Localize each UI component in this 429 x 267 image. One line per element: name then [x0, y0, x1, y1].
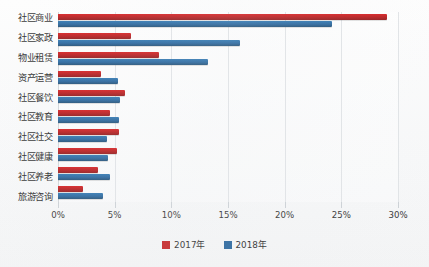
x-tick-label: 20%: [275, 210, 294, 220]
category-axis-labels: 社区商业 社区家政 物业租赁 资产运营 社区餐饮 社区教育 社区社交 社区健康 …: [2, 12, 56, 202]
x-tick: [58, 202, 59, 208]
bar-group: [58, 186, 398, 201]
x-tick-label: 25%: [332, 210, 351, 220]
bar-2017[interactable]: [58, 90, 125, 96]
category-label: 社区社交: [2, 131, 56, 142]
x-tick-label: 30%: [388, 210, 407, 220]
bar-group: [58, 167, 398, 182]
bar-2018[interactable]: [58, 136, 107, 142]
bar-2017[interactable]: [58, 33, 131, 39]
plot-area: [58, 12, 398, 202]
category-label: 社区商业: [2, 12, 56, 23]
legend-item-2018[interactable]: 2018年: [224, 238, 267, 251]
bar-group: [58, 129, 398, 144]
bar-chart: 社区商业 社区家政 物业租赁 资产运营 社区餐饮 社区教育 社区社交 社区健康 …: [0, 0, 429, 267]
bar-2017[interactable]: [58, 71, 101, 77]
bar-group: [58, 110, 398, 125]
bar-2018[interactable]: [58, 21, 332, 27]
x-axis: 0%5%10%15%20%25%30%: [58, 202, 398, 226]
bar-2017[interactable]: [58, 52, 159, 58]
bar-rows: [58, 12, 398, 202]
bar-group: [58, 52, 398, 67]
legend-label: 2017年: [174, 238, 205, 251]
plot-wrapper: 社区商业 社区家政 物业租赁 资产运营 社区餐饮 社区教育 社区社交 社区健康 …: [0, 0, 429, 212]
x-tick-label: 15%: [218, 210, 237, 220]
category-label: 社区餐饮: [2, 92, 56, 103]
bar-2017[interactable]: [58, 129, 119, 135]
category-label: 社区养老: [2, 171, 56, 182]
x-tick-label: 5%: [108, 210, 122, 220]
bar-2018[interactable]: [58, 193, 103, 199]
x-tick: [341, 202, 342, 208]
bar-2017[interactable]: [58, 110, 110, 116]
bar-2018[interactable]: [58, 59, 208, 65]
category-label: 旅游咨询: [2, 191, 56, 202]
blue-square-icon: [224, 241, 232, 249]
bar-2018[interactable]: [58, 155, 108, 161]
bar-2018[interactable]: [58, 78, 118, 84]
x-tick: [285, 202, 286, 208]
x-tick: [115, 202, 116, 208]
bar-2017[interactable]: [58, 167, 98, 173]
x-tick-label: 10%: [162, 210, 181, 220]
category-label: 社区教育: [2, 111, 56, 122]
legend-label: 2018年: [236, 238, 267, 251]
bar-group: [58, 71, 398, 86]
category-label: 资产运营: [2, 72, 56, 83]
x-tick: [171, 202, 172, 208]
bar-2018[interactable]: [58, 97, 120, 103]
red-square-icon: [162, 241, 170, 249]
gridline: [398, 12, 399, 202]
category-label: 社区家政: [2, 32, 56, 43]
category-label: 社区健康: [2, 151, 56, 162]
bar-2018[interactable]: [58, 40, 240, 46]
bar-2017[interactable]: [58, 148, 117, 154]
bar-group: [58, 33, 398, 48]
category-label: 物业租赁: [2, 52, 56, 63]
bar-group: [58, 148, 398, 163]
bar-group: [58, 90, 398, 105]
x-tick: [228, 202, 229, 208]
legend-item-2017[interactable]: 2017年: [162, 238, 205, 251]
bar-2017[interactable]: [58, 14, 387, 20]
x-tick: [398, 202, 399, 208]
chart-legend: 2017年 2018年: [0, 238, 429, 251]
bar-2018[interactable]: [58, 174, 110, 180]
bar-group: [58, 14, 398, 29]
bar-2018[interactable]: [58, 117, 119, 123]
bar-2017[interactable]: [58, 186, 83, 192]
x-tick-label: 0%: [51, 210, 65, 220]
